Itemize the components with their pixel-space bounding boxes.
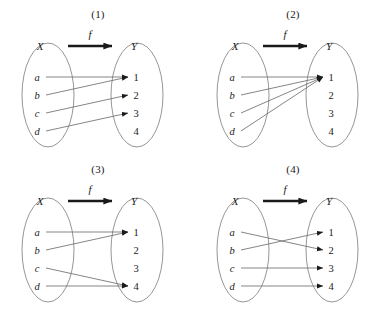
codomain-element: 4	[133, 281, 139, 292]
codomain-element: 4	[328, 281, 334, 292]
codomain-set-label: Y	[326, 40, 334, 52]
function-name-label: f	[283, 183, 288, 195]
domain-element: a	[229, 227, 234, 238]
codomain-element: 2	[328, 245, 333, 256]
mapping-arrow	[46, 268, 128, 286]
domain-element: a	[34, 227, 39, 238]
mapping-arrow	[46, 232, 128, 250]
domain-element: b	[34, 90, 39, 101]
codomain-element: 1	[328, 227, 333, 238]
codomain-element: 3	[328, 263, 333, 274]
mapping-arrow	[241, 77, 323, 95]
domain-element: a	[34, 72, 39, 83]
domain-element: c	[230, 263, 235, 274]
codomain-element: 1	[133, 72, 138, 83]
function-diagram-panel: (1)XYfabcd1234	[0, 0, 196, 157]
domain-element: c	[230, 108, 235, 119]
panel-canvas: XYfabcd1234	[0, 0, 196, 157]
function-name-label: f	[88, 28, 93, 40]
codomain-element: 1	[133, 227, 138, 238]
domain-element: b	[229, 245, 234, 256]
domain-element: c	[35, 263, 40, 274]
domain-set-label: X	[36, 40, 45, 52]
codomain-element: 3	[133, 108, 138, 119]
function-diagram-panel: (4)XYfabcd1234	[195, 155, 391, 312]
domain-element: d	[229, 126, 235, 137]
codomain-element: 3	[328, 108, 333, 119]
domain-set-label: X	[36, 195, 45, 207]
panel-canvas: XYfabcd1234	[195, 0, 391, 157]
codomain-set-label: Y	[131, 40, 139, 52]
domain-set-ellipse	[22, 43, 74, 147]
domain-element: d	[229, 281, 235, 292]
domain-set-ellipse	[217, 43, 269, 147]
codomain-element: 2	[133, 90, 138, 101]
mapping-arrow	[46, 95, 128, 113]
domain-set-label: X	[231, 40, 240, 52]
mapping-arrow	[46, 77, 128, 95]
codomain-element: 2	[328, 90, 333, 101]
panel-canvas: XYfabcd1234	[195, 155, 391, 312]
function-diagram-panel: (3)XYfabcd1234	[0, 155, 196, 312]
codomain-set-label: Y	[326, 195, 334, 207]
domain-element: d	[34, 126, 40, 137]
domain-element: a	[229, 72, 234, 83]
codomain-element: 4	[328, 126, 334, 137]
codomain-element: 2	[133, 245, 138, 256]
domain-element: d	[34, 281, 40, 292]
codomain-element: 4	[133, 126, 139, 137]
function-name-label: f	[88, 183, 93, 195]
mapping-arrow	[241, 77, 323, 113]
function-name-label: f	[283, 28, 288, 40]
function-diagram-panel: (2)XYfabcd1234	[195, 0, 391, 157]
function-diagram-figure: (1)XYfabcd1234(2)XYfabcd1234(3)XYfabcd12…	[0, 0, 391, 313]
panel-canvas: XYfabcd1234	[0, 155, 196, 312]
domain-element: b	[34, 245, 39, 256]
domain-element: c	[35, 108, 40, 119]
codomain-element: 1	[328, 72, 333, 83]
domain-element: b	[229, 90, 234, 101]
domain-set-label: X	[231, 195, 240, 207]
mapping-arrow	[241, 77, 323, 131]
mapping-arrow	[46, 113, 128, 131]
codomain-set-label: Y	[131, 195, 139, 207]
codomain-element: 3	[133, 263, 138, 274]
